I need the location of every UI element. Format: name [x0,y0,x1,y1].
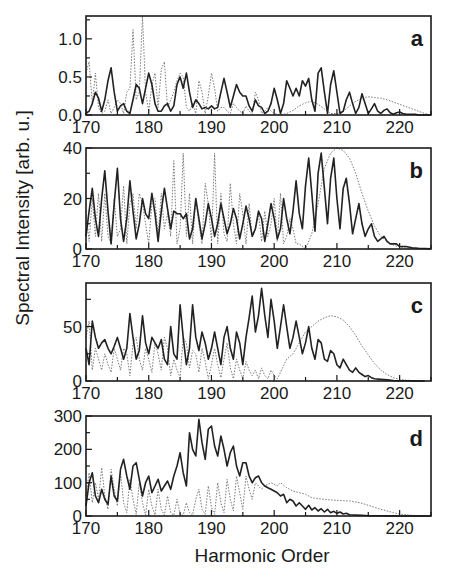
y-tick-label: 0 [73,372,82,391]
panels-group: 1701801902002102200.00.51.0a170180190200… [54,16,431,538]
x-tick-label: 180 [135,118,163,137]
x-tick-label: 210 [323,519,351,538]
x-tick-label: 200 [260,252,288,271]
x-tick-label: 220 [385,252,413,271]
panel-a: 1701801902002102200.00.51.0a [58,16,431,137]
panel-c: 170180190200210220050c [63,283,431,403]
x-tick-label: 190 [197,118,225,137]
y-tick-label: 100 [54,474,82,493]
panel-b: 17018019020021022002040b [63,139,431,271]
x-tick-label: 210 [323,252,351,271]
y-tick-label: 0.0 [58,106,82,125]
plot-frame [86,283,431,381]
x-tick-label: 190 [197,519,225,538]
x-tick-label: 200 [260,384,288,403]
x-tick-label: 180 [135,384,163,403]
x-axis-title: Harmonic Order [194,545,330,566]
panel-d: 1701801902002102200100200300d [54,407,431,538]
x-tick-label: 220 [385,118,413,137]
y-axis-title: Spectral Intensity [arb. u.] [12,110,33,325]
y-tick-label: 1.0 [58,30,82,49]
x-tick-label: 200 [260,118,288,137]
x-tick-label: 190 [197,384,225,403]
y-tick-label: 0 [73,240,82,259]
plot-frame [86,416,431,516]
y-tick-label: 0.5 [58,68,82,87]
y-tick-label: 200 [54,440,82,459]
y-tick-label: 0 [73,507,82,526]
harmonic-spectra-figure: 1701801902002102200.00.51.0a170180190200… [0,0,449,579]
x-tick-label: 190 [197,252,225,271]
x-tick-label: 200 [260,519,288,538]
series-dotted-line [86,16,431,115]
panel-label: a [411,26,424,51]
y-tick-label: 300 [54,407,82,426]
y-tick-label: 50 [63,318,82,337]
y-tick-label: 20 [63,190,82,209]
x-tick-label: 210 [323,118,351,137]
series-solid-line [86,288,425,381]
panel-label: b [410,158,423,183]
x-tick-label: 220 [385,384,413,403]
panel-label: c [411,293,423,318]
x-tick-label: 180 [135,519,163,538]
series-solid-line [86,68,431,115]
series-dotted-line [86,468,425,516]
panel-label: d [410,426,423,451]
x-tick-label: 180 [135,252,163,271]
y-tick-label: 40 [63,139,82,158]
series-solid-line [86,419,431,516]
x-tick-label: 220 [385,519,413,538]
x-tick-label: 210 [323,384,351,403]
